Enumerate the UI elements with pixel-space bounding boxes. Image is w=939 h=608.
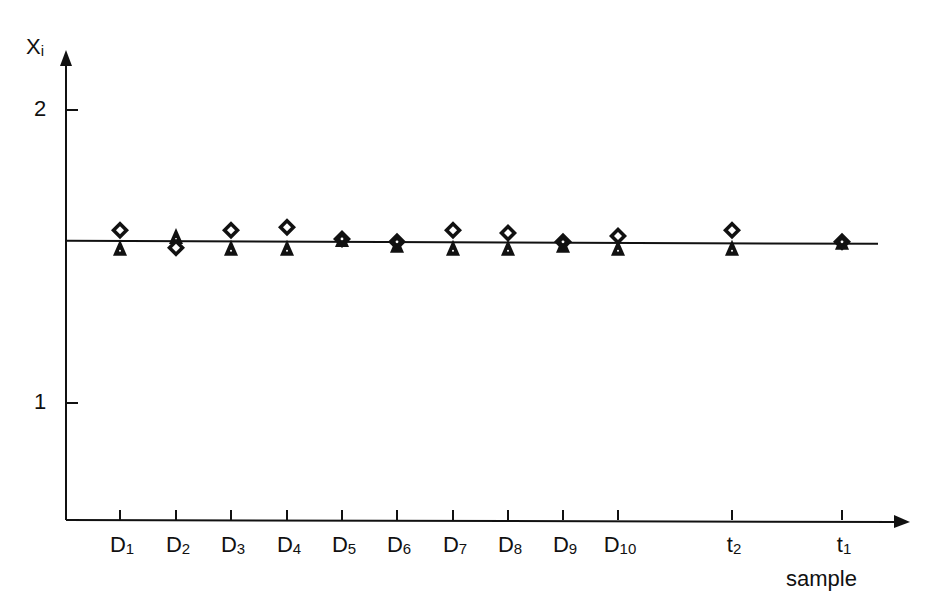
x-tick-label: D10 bbox=[604, 532, 637, 558]
x-tick-label: D3 bbox=[221, 532, 245, 558]
y-tick-label: 1 bbox=[34, 389, 46, 415]
diamond-marker bbox=[222, 221, 240, 239]
x-axis-arrow-icon bbox=[894, 515, 910, 528]
diamond-marker bbox=[111, 221, 129, 239]
x-tick-label: t1 bbox=[837, 532, 851, 558]
diamond-marker bbox=[444, 221, 462, 239]
diamond-marker bbox=[278, 218, 296, 236]
y-axis-label-main: X bbox=[26, 34, 41, 59]
x-axis-label: sample bbox=[786, 566, 857, 592]
x-tick-label: D5 bbox=[332, 532, 356, 558]
x-tick-label: D6 bbox=[387, 532, 411, 558]
x-tick-label: D7 bbox=[443, 532, 467, 558]
x-axis-line bbox=[66, 520, 896, 522]
x-tick-label: D9 bbox=[553, 532, 577, 558]
reference-line bbox=[66, 241, 878, 244]
triangle-marker bbox=[113, 240, 127, 256]
diamond-marker bbox=[333, 230, 351, 248]
scatter-chart bbox=[0, 0, 939, 608]
x-tick-label: D8 bbox=[498, 532, 522, 558]
y-tick-label: 2 bbox=[34, 96, 46, 122]
triangle-marker bbox=[725, 240, 739, 256]
x-tick-label: D2 bbox=[166, 532, 190, 558]
diamond-marker bbox=[388, 233, 406, 251]
y-axis-label: Xi bbox=[26, 34, 44, 60]
x-tick-label: D4 bbox=[277, 532, 301, 558]
x-tick-label: D1 bbox=[110, 532, 134, 558]
y-axis-label-sub: i bbox=[41, 42, 44, 59]
axes bbox=[60, 50, 910, 528]
y-axis-arrow-icon bbox=[60, 50, 72, 66]
data-markers bbox=[111, 218, 851, 257]
diamond-marker bbox=[554, 233, 572, 251]
diamond-marker bbox=[723, 221, 741, 239]
diamond-marker bbox=[499, 224, 517, 242]
x-tick-label: t2 bbox=[727, 532, 741, 558]
diamond-marker bbox=[833, 233, 851, 251]
